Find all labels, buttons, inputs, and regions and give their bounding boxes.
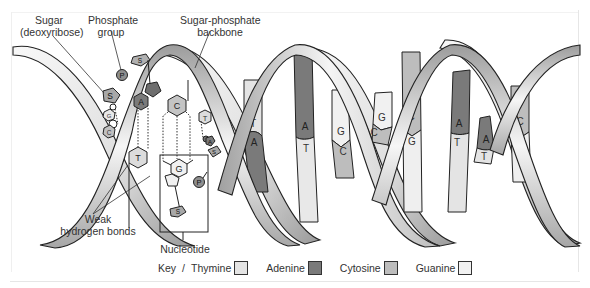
base-label: A [251,137,258,148]
base-label: T [481,151,487,162]
dna-helix-illustration: T A A T G C G C [0,0,590,288]
label-phosphate: Phosphate group [88,14,134,38]
guanine-letter: G [175,164,182,174]
legend-title: Key [158,262,176,274]
label-sugar: Sugar (deoxyribose) [20,14,78,38]
base-letter: G [107,113,112,119]
legend-item-cytosine: Cytosine [340,261,398,275]
sugar-letter: S [138,57,143,64]
thymine-letter: T [203,114,208,123]
base-label: T [303,143,309,154]
thymine-letter: T [135,153,141,163]
label-backbone: Sugar-phosphate backbone [180,14,260,38]
base-label: G [408,136,416,147]
cytosine-letter: C [174,101,181,111]
legend-item-adenine: Adenine [266,261,322,275]
sugar-letter: S [107,91,113,101]
base-pair-4: G C [370,92,392,145]
phosphate-letter: P [196,178,201,187]
sugar-letter: S [212,149,216,155]
base-label: A [456,118,463,129]
adenine-swatch [308,261,322,275]
base-label: T [454,137,460,148]
legend-separator: / [182,262,185,274]
base-label: A [302,121,309,132]
sugar-letter: S [176,208,181,215]
base-label: C [370,127,377,138]
base-pair-6: A T [448,70,470,212]
base-label: G [378,112,386,123]
adenine-letter: A [208,139,212,145]
dna-diagram: T A A T G C G C [0,0,590,288]
base-label: G [337,126,345,137]
legend-item-guanine: Guanine [416,261,473,275]
phosphate-letter: P [119,71,124,80]
base-pair-2: A T [294,50,318,222]
legend: Key / Thymine Adenine Cytosine Guanine [158,261,490,275]
thymine-swatch [234,261,248,275]
base-label: A [483,134,490,145]
guanine-swatch [458,261,472,275]
legend-item-thymine: Thymine [191,261,248,275]
base-label: C [339,146,346,157]
label-nucleotide: Nucleotide [158,243,212,255]
adenine-letter: A [138,97,144,107]
label-weak-hydrogen-bonds: Weak hydrogen bonds [58,213,138,237]
base-pair-7: A T [474,116,494,164]
base-letter: C [107,129,112,136]
cytosine-swatch [384,261,398,275]
